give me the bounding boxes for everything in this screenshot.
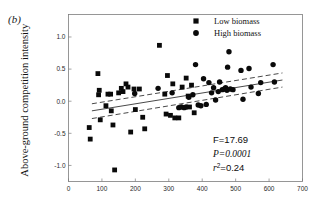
data-point: [230, 87, 235, 92]
data-point: [98, 117, 103, 122]
data-point: [133, 107, 138, 112]
figure-panel-b: (b) Above-ground competition intensity 1…: [0, 0, 321, 209]
data-point: [201, 76, 206, 81]
data-point: [96, 92, 101, 97]
data-point: [213, 97, 218, 102]
x-tick-label: 700: [297, 185, 308, 192]
data-point: [248, 84, 253, 89]
data-point: [204, 102, 209, 107]
data-point: [140, 115, 145, 120]
data-point: [270, 62, 275, 67]
scatter-plot: 1.00.50.0-0.5-1.0 0100200300400500600700…: [0, 0, 321, 209]
plot-frame: [69, 15, 303, 182]
legend-marker-square: [193, 18, 198, 23]
data-point: [209, 90, 214, 95]
data-point: [108, 92, 113, 97]
legend-label: High biomass: [214, 28, 261, 38]
data-point: [183, 104, 188, 109]
stats-annotation: F=17.69 P=0.0001 r2=0.24: [212, 134, 251, 173]
legend-marker-circle: [193, 30, 199, 36]
data-point: [104, 103, 109, 108]
data-point: [111, 123, 116, 128]
x-tick-label: 0: [67, 185, 71, 192]
y-axis-ticks: 1.00.50.0-0.5-1.0: [54, 33, 71, 168]
x-axis-ticks: 0100200300400500600700: [67, 179, 309, 192]
x-tick-label: 400: [197, 185, 208, 192]
x-tick-label: 600: [264, 185, 275, 192]
data-point: [189, 83, 194, 88]
data-point: [137, 87, 142, 92]
data-point: [121, 89, 126, 94]
legend: Low biomassHigh biomass: [193, 16, 261, 38]
data-point: [170, 81, 175, 86]
data-point: [164, 112, 169, 117]
data-point: [206, 80, 211, 85]
y-tick-label: 0.0: [56, 98, 65, 105]
data-point: [132, 91, 137, 96]
data-point: [258, 80, 263, 85]
data-point: [165, 73, 170, 78]
data-point: [246, 66, 251, 71]
y-tick-label: -0.5: [54, 130, 66, 137]
data-point: [192, 110, 197, 115]
data-point: [155, 86, 160, 91]
stat-f-value: F=17.69: [213, 134, 248, 145]
stat-r2-number: =0.24: [220, 162, 244, 173]
data-point: [240, 97, 245, 102]
data-point: [198, 103, 203, 108]
y-tick-label: 0.5: [56, 65, 65, 72]
data-point: [184, 76, 189, 81]
data-point: [217, 79, 222, 84]
data-point: [142, 126, 147, 131]
data-point: [112, 168, 117, 173]
data-point: [169, 90, 174, 95]
data-point: [96, 71, 101, 76]
data-point: [162, 92, 167, 97]
data-point: [132, 87, 137, 92]
x-tick-label: 300: [163, 185, 174, 192]
data-point: [176, 116, 181, 121]
stat-p-value: P=0.0001: [212, 149, 251, 159]
data-point: [256, 91, 261, 96]
data-point: [272, 79, 277, 84]
data-point: [109, 108, 114, 113]
data-point: [225, 64, 230, 69]
data-point: [157, 43, 162, 48]
x-tick-label: 100: [96, 185, 107, 192]
data-point: [88, 137, 93, 142]
y-tick-label: -1.0: [54, 162, 66, 169]
x-tick-label: 500: [230, 185, 241, 192]
data-point: [87, 125, 92, 130]
stat-p-text: P=0.0001: [212, 149, 251, 159]
data-point: [126, 85, 131, 90]
y-tick-label: 1.0: [56, 33, 65, 40]
legend-label: Low biomass: [214, 16, 260, 26]
data-point: [211, 85, 216, 90]
data-point: [190, 92, 195, 97]
data-point: [226, 49, 231, 54]
stat-r2-value: r2=0.24: [213, 162, 244, 174]
x-tick-label: 200: [130, 185, 141, 192]
data-point: [128, 130, 133, 135]
data-point: [116, 90, 121, 95]
data-point: [193, 62, 198, 67]
data-point: [180, 85, 185, 90]
data-point: [97, 88, 102, 93]
data-point: [168, 113, 173, 118]
data-point: [238, 68, 243, 73]
